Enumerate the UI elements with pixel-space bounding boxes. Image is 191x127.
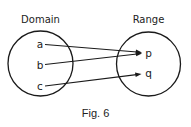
range-element-q: q — [145, 67, 152, 79]
domain-element-c: c — [37, 80, 43, 92]
range-title: Range — [133, 14, 165, 25]
function-mapping-diagram: Domain Range a b c p q Fig. 6 — [0, 0, 191, 127]
mapping-arrow-b-to-p — [45, 52, 142, 65]
domain-element-b: b — [37, 59, 44, 71]
range-element-p: p — [145, 47, 152, 59]
mapping-arrow-a-to-p — [45, 45, 142, 55]
domain-title: Domain — [21, 14, 60, 25]
figure-caption: Fig. 6 — [82, 107, 110, 119]
mapping-arrow-c-to-q — [45, 72, 142, 86]
arrowhead-icon — [135, 72, 142, 77]
range-circle — [117, 32, 181, 96]
domain-element-a: a — [37, 38, 43, 50]
